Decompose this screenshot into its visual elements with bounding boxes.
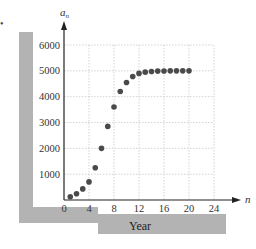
- x-tick-label: 12: [134, 203, 145, 214]
- y-tick-label: 6000: [39, 40, 60, 51]
- data-point: [124, 80, 130, 86]
- y-tick-label: 2000: [39, 143, 60, 154]
- data-point: [67, 194, 73, 200]
- x-tick-label: 16: [159, 203, 170, 214]
- y-tick-label: 4000: [39, 91, 60, 102]
- y-tick-label: 3000: [39, 117, 60, 128]
- data-point: [92, 165, 98, 171]
- data-point: [136, 71, 142, 77]
- data-point: [174, 68, 180, 74]
- x-tick-label: 4: [86, 203, 92, 214]
- data-point: [167, 68, 173, 74]
- data-point: [111, 104, 117, 110]
- data-point: [86, 179, 92, 185]
- y-tick-label: 5000: [39, 65, 60, 76]
- data-point: [105, 124, 111, 130]
- data-point: [130, 74, 136, 80]
- x-tick-label: 20: [184, 203, 195, 214]
- y-tick-label: 1000: [39, 169, 60, 180]
- data-point: [99, 146, 105, 152]
- data-point: [142, 69, 148, 75]
- data-point: [80, 186, 86, 192]
- x-tick-label: 8: [111, 203, 116, 214]
- x-axis-symbol: n: [245, 193, 251, 205]
- data-point: [180, 68, 186, 74]
- data-point: [161, 68, 167, 74]
- x-axis-title-band: [98, 214, 226, 234]
- x-axis-arrow-icon: [232, 197, 241, 203]
- data-point: [74, 191, 80, 197]
- data-point: [149, 69, 155, 75]
- data-point: [155, 68, 161, 74]
- x-tick-label: 0: [61, 203, 66, 214]
- data-point: [186, 68, 192, 74]
- x-axis-title: Year: [129, 219, 151, 234]
- scatter-chart: ann 04812162024100020003000400050006000: [0, 0, 256, 249]
- x-tick-label: 24: [209, 203, 220, 214]
- data-point: [117, 89, 123, 95]
- y-axis-arrow-icon: [61, 21, 67, 30]
- y-axis-symbol: an: [60, 6, 70, 20]
